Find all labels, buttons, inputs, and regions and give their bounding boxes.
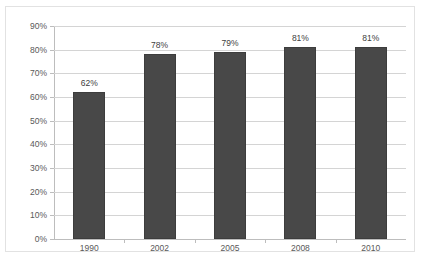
x-axis-tick-mark [265, 239, 266, 243]
x-axis-tick-label: 2002 [130, 244, 190, 253]
bar [144, 54, 176, 239]
bar [214, 52, 246, 239]
bar-value-label: 62% [59, 79, 119, 88]
y-axis-tick-mark [50, 50, 54, 51]
y-axis-tick-mark [50, 192, 54, 193]
y-axis-tick-mark [50, 239, 54, 240]
y-axis-tick-label: 60% [11, 93, 47, 102]
y-axis-tick-mark [50, 168, 54, 169]
bar [284, 47, 316, 239]
x-axis-tick-label: 2005 [200, 244, 260, 253]
y-axis-tick-mark [50, 97, 54, 98]
gridline [54, 239, 406, 240]
y-axis-tick-mark [50, 121, 54, 122]
x-axis-tick-label: 1990 [59, 244, 119, 253]
y-axis-tick-mark [50, 26, 54, 27]
y-axis-tick-label: 70% [11, 69, 47, 78]
plot-area [54, 26, 406, 239]
x-axis-tick-mark [124, 239, 125, 243]
y-axis-tick-label: 90% [11, 22, 47, 31]
bar-value-label: 78% [130, 41, 190, 50]
y-axis-tick-label: 20% [11, 187, 47, 196]
chart-frame: 0%10%20%30%40%50%60%70%80%90% 62%199078%… [5, 6, 415, 252]
bar [73, 92, 105, 239]
y-axis-tick-mark [50, 215, 54, 216]
bar-value-label: 81% [341, 34, 401, 43]
y-axis-tick-mark [50, 73, 54, 74]
y-axis-tick-mark [50, 144, 54, 145]
gridline [54, 26, 406, 27]
y-axis-tick-labels: 0%10%20%30%40%50%60%70%80%90% [6, 7, 47, 260]
y-axis-tick-label: 40% [11, 140, 47, 149]
x-axis-tick-label: 2010 [341, 244, 401, 253]
y-axis-tick-label: 10% [11, 211, 47, 220]
bar-value-label: 79% [200, 39, 260, 48]
bar-value-label: 81% [270, 34, 330, 43]
y-axis-tick-label: 50% [11, 116, 47, 125]
bar [355, 47, 387, 239]
x-axis-tick-mark [195, 239, 196, 243]
y-axis-tick-label: 80% [11, 45, 47, 54]
x-axis-tick-label: 2008 [270, 244, 330, 253]
y-axis-tick-label: 30% [11, 164, 47, 173]
gridline [54, 50, 406, 51]
x-axis-tick-mark [336, 239, 337, 243]
y-axis-tick-label: 0% [11, 235, 47, 244]
